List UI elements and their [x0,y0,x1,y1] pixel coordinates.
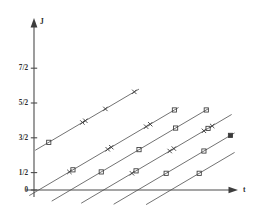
trajectory-line [52,109,208,201]
trajectory-lines-group [29,89,234,205]
y-axis-title: J [40,17,44,26]
x-marker [210,124,214,128]
trajectory-line [114,133,235,204]
y-axis-tick-label: 1/2 [19,169,29,177]
y-axis-tick-label: 0 [24,186,28,194]
y-axis-tick-label: 7/2 [19,64,29,72]
y-axis-arrow-icon [31,18,38,28]
x-marker [172,146,176,150]
x-axis-title: t [243,185,246,194]
y-axis-tick-label: 3/2 [19,134,29,142]
y-axis-tick-label: 5/2 [19,99,29,107]
x-marker [103,107,107,111]
x-marker [202,129,206,133]
x-marker [130,171,134,175]
data-markers-group [47,90,233,176]
x-marker [168,149,172,153]
regge-trajectory-plot: 01/23/25/27/2 J t [0,0,264,209]
plot-canvas: 01/23/25/27/2 J t [0,0,264,209]
x-axis-arrow-icon [229,187,239,193]
x-marker [144,124,148,128]
filled-square-marker [228,133,232,137]
trajectory-line [146,152,235,204]
trajectory-line [29,108,178,196]
x-marker [148,122,152,126]
x-marker [132,90,136,94]
